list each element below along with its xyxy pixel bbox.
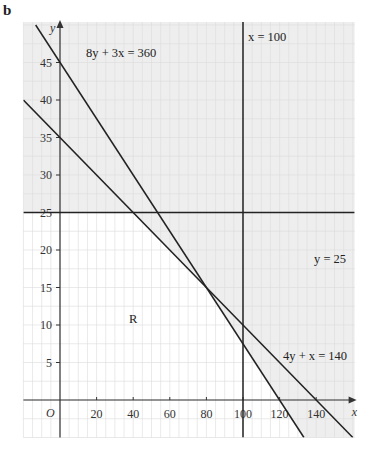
- y-tick-label: 35: [40, 131, 52, 145]
- label-x-100: x = 100: [248, 30, 286, 44]
- y-tick-label: 15: [40, 281, 52, 295]
- y-tick-label: 40: [40, 93, 52, 107]
- origin-label: O: [46, 406, 55, 420]
- label-y-25: y = 25: [314, 252, 346, 266]
- y-tick-label: 30: [40, 168, 52, 182]
- y-axis-label: y: [49, 21, 56, 35]
- x-tick-label: 80: [200, 407, 212, 421]
- y-tick-label: 10: [40, 318, 52, 332]
- y-tick-label: 20: [40, 243, 52, 257]
- y-tick-label: 45: [40, 56, 52, 70]
- x-tick-label: 140: [307, 407, 325, 421]
- x-tick-label: 40: [127, 407, 139, 421]
- x-axis-label: x: [351, 405, 358, 419]
- linear-programming-chart: 2040608010012014051015202530354045Oxy8y …: [0, 0, 372, 461]
- region-label-r: R: [129, 312, 138, 326]
- y-tick-label: 5: [46, 356, 52, 370]
- x-tick-label: 20: [91, 407, 103, 421]
- label-8y-3x-360: 8y + 3x = 360: [86, 46, 156, 60]
- x-tick-label: 60: [164, 407, 176, 421]
- label-4y-x-140: 4y + x = 140: [283, 349, 347, 363]
